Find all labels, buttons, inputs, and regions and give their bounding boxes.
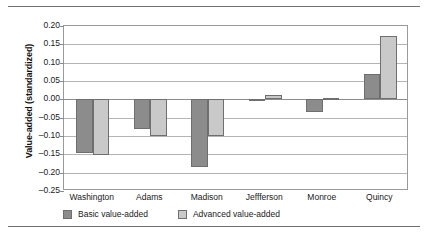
y-axis-tick-label: –0.25 [26, 186, 60, 195]
x-axis-category-labels: WashingtonAdamsMadisonJefffersonMonroeQu… [63, 192, 408, 206]
bar-basic[interactable] [364, 74, 381, 99]
bar-group [294, 26, 352, 189]
y-axis-tick-label: 0.15 [26, 39, 60, 48]
y-axis-tick-label: 0.05 [26, 76, 60, 85]
y-axis-tick-labels: 0.200.150.100.050.00–0.05–0.10–0.15–0.20… [26, 25, 60, 190]
legend-swatch-basic [63, 210, 72, 219]
bar-group [237, 26, 295, 189]
y-axis-tick-label: –0.10 [26, 131, 60, 140]
y-axis-tick-label: 0.20 [26, 21, 60, 30]
legend-swatch-advanced [178, 210, 187, 219]
bar-series-container [64, 26, 407, 189]
y-axis-tick-label: –0.05 [26, 112, 60, 121]
bar-basic[interactable] [191, 99, 208, 167]
bar-group [122, 26, 180, 189]
bar-advanced[interactable] [150, 99, 167, 136]
x-axis-category-label: Washington [69, 192, 114, 203]
chart-figure: Value-added (standardized) 0.200.150.100… [0, 0, 428, 234]
bar-basic[interactable] [76, 99, 93, 153]
bar-advanced[interactable] [265, 95, 282, 99]
bar-advanced[interactable] [380, 36, 397, 99]
x-axis-category-label: Adams [136, 192, 162, 203]
x-axis-category-label: Quincy [366, 192, 392, 203]
bar-group [352, 26, 410, 189]
y-axis-tick-label: 0.00 [26, 94, 60, 103]
bar-advanced[interactable] [323, 98, 340, 100]
y-axis-tick-label: –0.15 [26, 149, 60, 158]
x-axis-category-label: Monroe [307, 192, 336, 203]
x-axis-category-label: Jeffferson [246, 192, 283, 203]
chart-legend: Basic value-addedAdvanced value-added [63, 210, 280, 219]
legend-label: Basic value-added [78, 210, 148, 219]
bar-group [179, 26, 237, 189]
bar-basic[interactable] [134, 99, 151, 128]
bar-advanced[interactable] [93, 99, 110, 155]
figure-top-rule [8, 6, 420, 7]
bar-basic[interactable] [306, 99, 323, 112]
legend-label: Advanced value-added [193, 210, 280, 219]
y-axis-tick-label: –0.20 [26, 167, 60, 176]
x-axis-category-label: Madison [191, 192, 223, 203]
figure-bottom-rule [8, 226, 420, 227]
y-axis-tick-label: 0.10 [26, 57, 60, 66]
bar-basic[interactable] [249, 99, 266, 101]
plot-area [63, 25, 408, 190]
bar-advanced[interactable] [208, 99, 225, 136]
legend-item[interactable]: Advanced value-added [178, 210, 280, 219]
bar-group [64, 26, 122, 189]
legend-item[interactable]: Basic value-added [63, 210, 148, 219]
